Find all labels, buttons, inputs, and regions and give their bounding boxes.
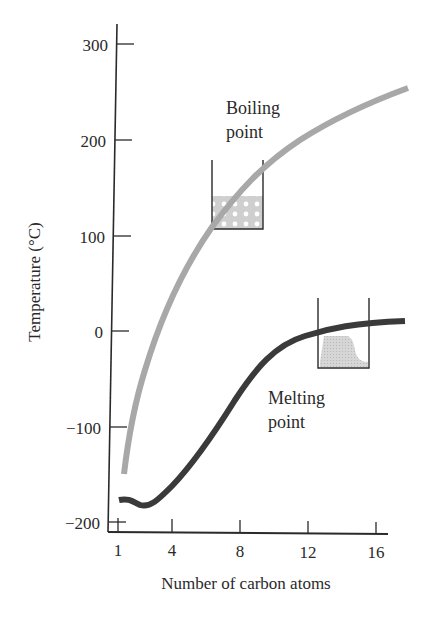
svg-text:point: point xyxy=(268,412,305,432)
x-tick-label: 8 xyxy=(236,542,245,561)
boiling-point-curve xyxy=(124,88,408,474)
x-tick-label: 4 xyxy=(168,541,177,560)
boiling-point-label: Boiling point xyxy=(226,98,280,142)
y-tick-label: 200 xyxy=(81,132,107,151)
x-axis-line xyxy=(108,532,388,534)
x-tick-label: 1 xyxy=(114,541,123,560)
y-tick-label: 100 xyxy=(80,228,106,247)
y-tick-label: 300 xyxy=(83,36,109,55)
y-tick-label: −200 xyxy=(65,514,100,533)
y-tick-label: 0 xyxy=(95,323,104,342)
y-axis-title: Temperature (°C) xyxy=(25,222,44,341)
chart-canvas: 300 200 100 0 −100 −200 1 4 8 12 16 Numb… xyxy=(0,0,424,620)
svg-text:Boiling: Boiling xyxy=(226,98,280,118)
y-tick-labels: 300 200 100 0 −100 −200 xyxy=(65,36,108,533)
y-tick-label: −100 xyxy=(66,419,101,438)
svg-text:Melting: Melting xyxy=(268,388,325,408)
y-axis-line xyxy=(108,24,117,532)
x-tick-label: 16 xyxy=(368,543,385,562)
melting-point-curve xyxy=(119,321,405,506)
melting-point-label: Melting point xyxy=(268,388,325,432)
x-tick-labels: 1 4 8 12 16 xyxy=(114,541,385,562)
svg-text:point: point xyxy=(226,122,263,142)
x-tick-label: 12 xyxy=(300,543,317,562)
x-axis-title: Number of carbon atoms xyxy=(161,574,330,593)
